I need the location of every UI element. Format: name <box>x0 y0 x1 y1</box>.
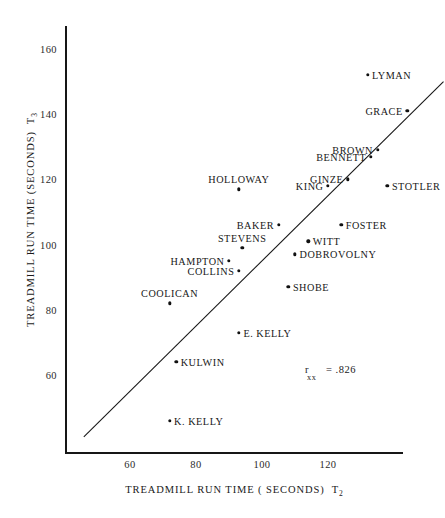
data-point-label: FOSTER <box>346 220 387 231</box>
x-tick-label: 100 <box>254 459 271 470</box>
data-point-label: STEVENS <box>218 232 267 243</box>
x-tick-label: 120 <box>320 459 337 470</box>
data-point-label: LYMAN <box>372 70 411 81</box>
y-tick-label: 120 <box>40 174 57 185</box>
data-point-label: BAKER <box>237 220 274 231</box>
y-tick-label: 60 <box>46 370 57 381</box>
y-axis-title-subscript: 3 <box>30 113 39 117</box>
data-point-label: E. KELLY <box>243 327 291 338</box>
data-point-label: BENNETT <box>316 151 366 162</box>
data-point-label: WITT <box>313 236 341 247</box>
x-axis-title-subscript: 2 <box>339 489 343 498</box>
correlation-subscript: xx <box>307 373 316 382</box>
y-tick-label: 100 <box>40 239 57 250</box>
y-tick-label: 160 <box>40 44 57 55</box>
data-point-label: GRACE <box>365 105 402 116</box>
x-axis-title: TREADMILL RUN TIME ( SECONDS) T2 <box>65 484 403 498</box>
x-axis-title-text: TREADMILL RUN TIME ( SECONDS) <box>125 484 324 495</box>
x-tick-label: 60 <box>124 459 135 470</box>
y-tick-label: 140 <box>40 109 57 120</box>
correlation-annotation: rxx= .826 <box>305 364 356 375</box>
data-point-label: KULWIN <box>181 356 225 367</box>
data-point-label: COLLINS <box>188 265 235 276</box>
correlation-value: = .826 <box>326 364 356 375</box>
data-point-label: K. KELLY <box>174 415 223 426</box>
data-point-label: DOBROVOLNY <box>300 249 377 260</box>
data-point-label: STOTLER <box>392 180 440 191</box>
data-point-label: KING <box>296 180 324 191</box>
data-point-label: COOLICAN <box>141 288 198 299</box>
y-axis-title-text: TREADMILL RUN TIME (SECONDS) <box>25 131 36 327</box>
x-tick-label: 80 <box>190 459 201 470</box>
y-axis-title: TREADMILL RUN TIME (SECONDS) T3 <box>25 70 39 370</box>
y-tick-label: 80 <box>46 304 57 315</box>
data-point-label: SHOBE <box>293 281 329 292</box>
scatter-plot-figure: 1601401201008060 6080100120 TREADMILL RU… <box>0 0 445 518</box>
data-point-label: HOLLOWAY <box>208 174 269 185</box>
